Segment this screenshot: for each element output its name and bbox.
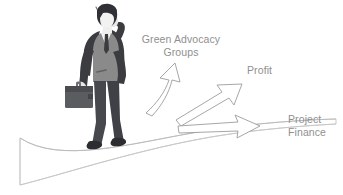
illustration-canvas: Green Advocacy Groups Profit Project Fin…: [0, 0, 343, 195]
shoe-left: [87, 141, 102, 149]
businessman-figure: [65, 4, 126, 149]
shoe-right: [111, 138, 126, 146]
label-profit: Profit: [247, 64, 297, 77]
label-green-advocacy-groups: Green Advocacy Groups: [135, 33, 227, 59]
leg-left: [92, 81, 106, 146]
arrow-profit-icon: [176, 84, 242, 126]
arrow-green-advocacy-icon: [146, 63, 180, 116]
leg-right: [107, 81, 124, 143]
briefcase: [65, 82, 93, 109]
illustration-svg: [0, 0, 343, 195]
left-arm: [79, 48, 94, 86]
label-project-finance: Project Finance: [288, 113, 343, 139]
